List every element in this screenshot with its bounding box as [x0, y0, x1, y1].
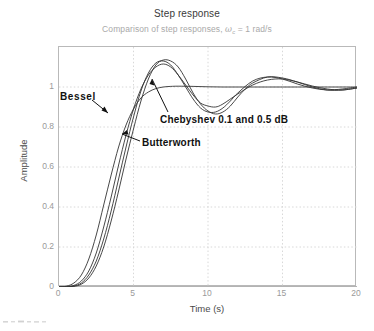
chart-subtitle: Comparison of step responses, ωc = 1 rad… — [0, 24, 374, 35]
curve-butterworth — [59, 64, 357, 287]
y-tick-1: 1 — [32, 81, 54, 91]
y-tick-0: 0 — [32, 281, 54, 291]
gridlines — [59, 47, 357, 287]
step-response-figure: Step response Comparison of step respons… — [0, 0, 374, 331]
y-tick-0-6: 0.6 — [32, 161, 54, 171]
subtitle-prefix: Comparison of step responses, — [102, 24, 225, 34]
y-axis-label: Amplitude — [18, 121, 29, 201]
plot-area — [58, 46, 356, 286]
x-tick-10: 10 — [195, 288, 219, 298]
y-tick-0-4: 0.4 — [32, 201, 54, 211]
x-tick-15: 15 — [270, 288, 294, 298]
x-axis-label: Time (s) — [58, 303, 356, 314]
annotation-butterworth: Butterworth — [142, 137, 201, 148]
chart-title: Step response — [0, 8, 374, 19]
x-tick-5: 5 — [121, 288, 145, 298]
scan-artifact — [2, 319, 48, 324]
annotation-bessel: Bessel — [60, 91, 96, 102]
plot-canvas — [59, 47, 357, 287]
subtitle-suffix: = 1 rad/s — [235, 24, 272, 34]
y-tick-0-8: 0.8 — [32, 121, 54, 131]
annotation-chebyshev: Chebyshev 0.1 and 0.5 dB — [160, 114, 288, 125]
x-tick-20: 20 — [344, 288, 368, 298]
y-tick-0-2: 0.2 — [32, 241, 54, 251]
